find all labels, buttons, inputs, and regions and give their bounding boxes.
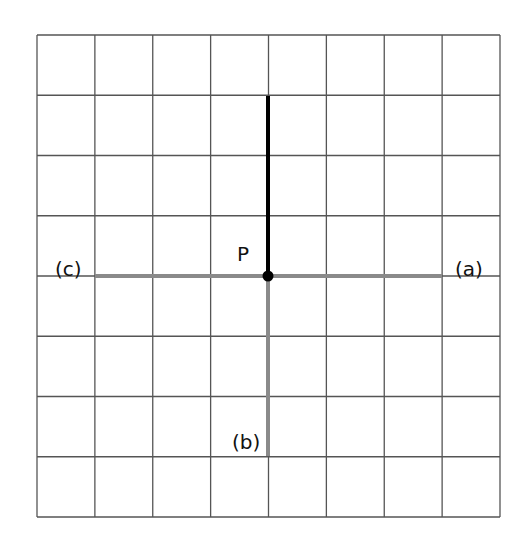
point-p-dot <box>263 271 274 282</box>
point-p-label: P <box>237 244 249 264</box>
label-a: (a) <box>455 259 483 279</box>
label-b: (b) <box>232 432 260 452</box>
label-c: (c) <box>55 259 82 279</box>
